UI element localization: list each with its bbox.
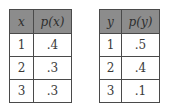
value-cell: 3 [100, 80, 122, 103]
header-cell-py: p(y) [122, 10, 160, 34]
table-row: 2 .4 [100, 57, 160, 80]
header-cell-y: y [100, 10, 122, 34]
probability-cell: .4 [122, 57, 160, 80]
table-row: 2 .3 [10, 57, 72, 80]
probability-cell: .1 [122, 80, 160, 103]
value-cell: 2 [10, 57, 34, 80]
header-row: y p(y) [100, 10, 160, 34]
probability-cell: .5 [122, 34, 160, 57]
probability-cell: .3 [34, 57, 72, 80]
value-cell: 3 [10, 80, 34, 103]
header-cell-px: p(x) [34, 10, 72, 34]
value-cell: 1 [100, 34, 122, 57]
value-cell: 1 [10, 34, 34, 57]
table-row: 3 .1 [100, 80, 160, 103]
value-cell: 2 [100, 57, 122, 80]
probability-cell: .3 [34, 80, 72, 103]
table-row: 3 .3 [10, 80, 72, 103]
header-cell-x: x [10, 10, 34, 34]
probability-cell: .4 [34, 34, 72, 57]
table-row: 1 .4 [10, 34, 72, 57]
table-row: 1 .5 [100, 34, 160, 57]
header-row: x p(x) [10, 10, 72, 34]
probability-table-y: y p(y) 1 .5 2 .4 3 .1 [99, 9, 160, 103]
probability-table-x: x p(x) 1 .4 2 .3 3 .3 [9, 9, 72, 103]
